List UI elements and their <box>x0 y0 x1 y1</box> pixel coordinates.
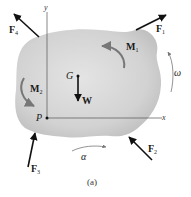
point-p-dot <box>46 117 49 120</box>
force-f2-label: F2 <box>148 144 157 155</box>
moment-m2-label: M2 <box>30 84 42 95</box>
force-f1-label: F1 <box>156 24 165 35</box>
weight-label: W <box>82 96 92 106</box>
force-f1-subscript: 1 <box>162 29 165 35</box>
force-f3-arrow <box>28 133 35 167</box>
angular-acceleration-label: α <box>81 152 86 162</box>
force-f4-subscript: 4 <box>15 30 18 36</box>
moment-m2-subscript: 2 <box>39 89 42 95</box>
figure-caption: (a) <box>87 178 97 187</box>
x-axis-label: x <box>162 114 166 122</box>
point-g-label: G <box>66 71 73 81</box>
force-f3-subscript: 3 <box>37 169 40 175</box>
force-f4-label: F4 <box>9 25 18 36</box>
y-axis-label: y <box>44 4 48 12</box>
angular-velocity-arrow <box>168 52 173 92</box>
angular-velocity-label: ω <box>174 68 181 78</box>
free-body-diagram: y x P G W F1 F2 F3 F4 M1 M2 ω α (a) <box>0 0 191 197</box>
moment-m1-label: M1 <box>126 42 138 53</box>
force-f2-subscript: 2 <box>154 149 157 155</box>
moment-m1-subscript: 1 <box>135 47 138 53</box>
force-f3-label: F3 <box>31 164 40 175</box>
angular-acceleration-arrow <box>72 146 106 151</box>
point-p-label: P <box>36 113 42 123</box>
